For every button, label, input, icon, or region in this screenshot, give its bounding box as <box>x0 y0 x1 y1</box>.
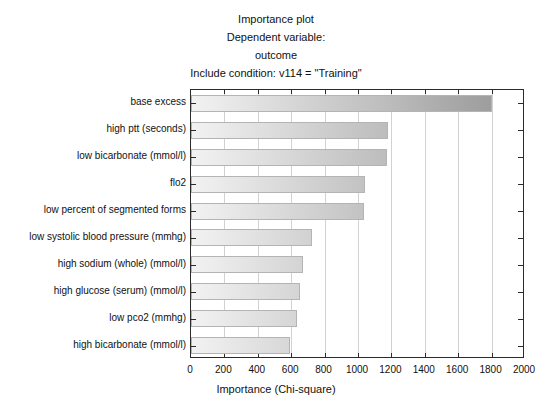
bar <box>191 229 312 246</box>
x-tick-mark <box>458 353 459 357</box>
x-axis-tick-label: 0 <box>187 364 193 376</box>
x-tick-mark <box>224 90 225 94</box>
bar <box>191 176 365 193</box>
y-tick-mark <box>191 319 196 320</box>
x-tick-mark <box>291 353 292 357</box>
y-tick-mark <box>518 292 523 293</box>
x-axis-tick-label: 400 <box>248 364 265 376</box>
x-tick-mark <box>458 90 459 94</box>
x-tick-mark <box>358 90 359 94</box>
x-axis-tick-label: 1400 <box>413 364 435 376</box>
y-tick-mark <box>191 211 196 212</box>
bar <box>191 256 303 273</box>
x-tick-mark <box>358 353 359 357</box>
y-axis-tick-label: high sodium (whole) (mmol/l) <box>58 258 186 270</box>
bar <box>191 95 492 112</box>
y-tick-mark <box>191 130 196 131</box>
y-tick-mark <box>518 103 523 104</box>
y-tick-mark <box>518 238 523 239</box>
y-tick-mark <box>518 265 523 266</box>
y-axis-tick-label: flo2 <box>170 177 186 189</box>
y-tick-mark <box>191 292 196 293</box>
y-tick-mark <box>518 211 523 212</box>
x-tick-mark <box>425 353 426 357</box>
y-axis-tick-label: low systolic blood pressure (mmhg) <box>29 231 186 243</box>
bar <box>191 122 388 139</box>
x-axis-tick-label: 2000 <box>513 364 535 376</box>
x-tick-mark <box>492 353 493 357</box>
y-axis-labels: base excesshigh ptt (seconds)low bicarbo… <box>0 89 186 358</box>
gridline <box>425 90 426 357</box>
x-axis-tick-label: 1200 <box>379 364 401 376</box>
dependent-variable-value: outcome <box>0 46 552 64</box>
x-tick-mark <box>492 90 493 94</box>
y-tick-mark <box>518 346 523 347</box>
x-tick-mark <box>258 90 259 94</box>
x-tick-mark <box>425 90 426 94</box>
y-axis-tick-label: low bicarbonate (mmol/l) <box>77 150 186 162</box>
y-tick-mark <box>191 157 196 158</box>
y-tick-mark <box>191 238 196 239</box>
x-axis-tick-label: 600 <box>282 364 299 376</box>
include-condition-label: Include condition: v114 = "Training" <box>0 64 552 82</box>
bar <box>191 337 290 354</box>
dependent-variable-label: Dependent variable: <box>0 28 552 46</box>
y-tick-mark <box>518 319 523 320</box>
y-tick-mark <box>191 265 196 266</box>
y-axis-tick-label: high glucose (serum) (mmol/l) <box>54 285 186 297</box>
y-tick-mark <box>191 346 196 347</box>
y-axis-tick-label: low percent of segmented forms <box>44 204 186 216</box>
gridline <box>458 90 459 357</box>
bar <box>191 310 297 327</box>
y-axis-tick-label: base excess <box>130 96 186 108</box>
y-tick-mark <box>518 157 523 158</box>
y-tick-mark <box>518 184 523 185</box>
x-tick-mark <box>391 90 392 94</box>
chart-title: Importance plot <box>0 10 552 28</box>
x-axis-tick-label: 800 <box>315 364 332 376</box>
x-axis-tick-label: 1800 <box>479 364 501 376</box>
bar <box>191 283 300 300</box>
y-axis-tick-label: low pco2 (mmhg) <box>109 312 186 324</box>
x-axis-tick-label: 1600 <box>446 364 468 376</box>
plot-area <box>190 89 524 358</box>
y-axis-tick-label: high bicarbonate (mmol/l) <box>73 339 186 351</box>
y-tick-mark <box>518 130 523 131</box>
chart-title-block: Importance plot Dependent variable: outc… <box>0 10 552 82</box>
x-tick-mark <box>325 90 326 94</box>
x-tick-mark <box>291 90 292 94</box>
y-tick-mark <box>191 184 196 185</box>
x-axis-tick-label: 200 <box>215 364 232 376</box>
y-tick-mark <box>191 103 196 104</box>
x-tick-mark <box>391 353 392 357</box>
importance-plot: Importance plot Dependent variable: outc… <box>0 0 552 408</box>
bar <box>191 203 364 220</box>
gridline <box>391 90 392 357</box>
x-axis-title: Importance (Chi-square) <box>0 383 552 395</box>
x-tick-mark <box>325 353 326 357</box>
y-axis-tick-label: high ptt (seconds) <box>107 123 187 135</box>
x-axis-tick-label: 1000 <box>346 364 368 376</box>
bar <box>191 149 387 166</box>
gridline <box>492 90 493 357</box>
